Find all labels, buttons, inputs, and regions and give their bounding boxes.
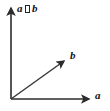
diagram-canvas [0, 0, 110, 111]
vector-b-label: b [70, 50, 76, 61]
vertical-axis-label: ab [17, 3, 38, 14]
vector-b-arrow [11, 61, 64, 99]
vertical-axis-label-suffix: b [32, 2, 38, 14]
operator-symbol-glyph [25, 5, 30, 13]
vertical-axis-label-prefix: a [17, 2, 23, 14]
vector-diagram: ab a b [0, 0, 110, 111]
horizontal-axis-label: a [95, 90, 101, 101]
